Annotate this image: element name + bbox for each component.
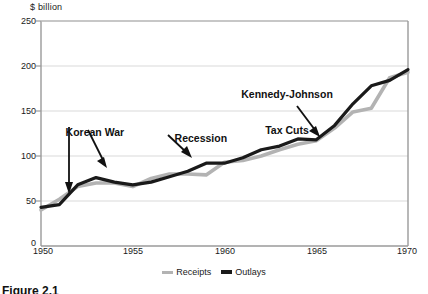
x-tick-1955: 1955 [113,246,153,256]
annotation-tax-cuts-line2: Tax Cuts [222,124,352,136]
legend-label-outlays: Outlays [235,267,266,277]
annotation-tax-cuts-line1: Kennedy-Johnson [222,88,352,100]
annotation-korean-war-label: Korean War [66,126,125,138]
annotation-korean-war: Korean War [46,114,132,150]
x-tick-1950: 1950 [23,246,63,256]
annotation-kennedy-johnson-tax-cuts: Kennedy-Johnson Tax Cuts [222,64,352,160]
legend-label-receipts: Receipts [176,267,211,277]
figure-caption: Figure 2.1 [2,284,59,294]
arrow-korean-war-diagonal-head [97,157,107,168]
x-tick-1965: 1965 [297,246,337,256]
x-tick-1970: 1970 [387,246,427,256]
x-axis-tick-labels: 1950 1955 1960 1965 1970 [0,246,428,262]
legend-swatch-outlays [221,270,232,274]
y-tick-marks [36,21,41,201]
figure-root: $ billion 250 200 150 100 50 0 [0,0,428,294]
legend-item-outlays[interactable]: Outlays [221,267,266,277]
annotation-recession-label: Recession [175,132,228,144]
legend-item-receipts[interactable]: Receipts [162,267,211,277]
legend-swatch-receipts [162,271,173,274]
x-tick-1960: 1960 [205,246,245,256]
chart-legend: Receipts Outlays [0,264,428,280]
